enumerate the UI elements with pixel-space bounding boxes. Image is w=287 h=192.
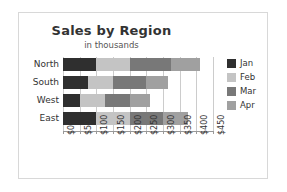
x-axis-tick-label: $50 bbox=[84, 120, 93, 135]
legend-swatch-icon bbox=[227, 73, 236, 82]
x-axis-tick-label: $0 bbox=[67, 125, 76, 135]
legend-item-mar[interactable]: Mar bbox=[227, 85, 273, 98]
legend-item-feb[interactable]: Feb bbox=[227, 71, 273, 84]
bar-segment-jan[interactable] bbox=[63, 76, 88, 89]
gridline bbox=[213, 57, 214, 131]
x-axis-tick bbox=[63, 131, 64, 134]
chart-subtitle: in thousands bbox=[19, 40, 204, 50]
x-axis-tick-label: $400 bbox=[200, 115, 209, 135]
x-axis-tick-label: $150 bbox=[117, 115, 126, 135]
legend-item-apr[interactable]: Apr bbox=[227, 99, 273, 112]
bar-segment-apr[interactable] bbox=[171, 58, 199, 71]
x-axis-tick bbox=[196, 131, 197, 134]
x-axis-tick bbox=[146, 131, 147, 134]
legend-label: Mar bbox=[240, 87, 256, 96]
x-axis-tick bbox=[163, 131, 164, 134]
bar-row[interactable]: West bbox=[63, 94, 213, 107]
x-axis-tick-label: $350 bbox=[184, 115, 193, 135]
legend-label: Jan bbox=[240, 59, 253, 68]
chart-frame: Sales by Region in thousands NorthSouthW… bbox=[18, 12, 268, 179]
category-label: East bbox=[17, 112, 59, 125]
x-axis-tick-label: $300 bbox=[167, 115, 176, 135]
x-axis-tick bbox=[80, 131, 81, 134]
x-axis-tick bbox=[130, 131, 131, 134]
chart-title: Sales by Region bbox=[19, 23, 204, 38]
bar-segment-mar[interactable] bbox=[105, 94, 130, 107]
legend-swatch-icon bbox=[227, 59, 236, 68]
bar-segment-jan[interactable] bbox=[63, 58, 96, 71]
x-axis-tick-label: $450 bbox=[217, 115, 226, 135]
category-label: West bbox=[17, 94, 59, 107]
bar-segment-feb[interactable] bbox=[96, 58, 129, 71]
bar-segment-apr[interactable] bbox=[130, 94, 150, 107]
bar-segment-feb[interactable] bbox=[80, 94, 105, 107]
legend-swatch-icon bbox=[227, 87, 236, 96]
legend-label: Feb bbox=[240, 73, 255, 82]
legend-label: Apr bbox=[240, 101, 255, 110]
category-label: North bbox=[17, 58, 59, 71]
category-label: South bbox=[17, 76, 59, 89]
x-axis-tick bbox=[96, 131, 97, 134]
x-axis-tick-label: $200 bbox=[134, 115, 143, 135]
bar-segment-mar[interactable] bbox=[130, 58, 172, 71]
chart-legend: JanFebMarApr bbox=[227, 57, 273, 113]
bar-segment-feb[interactable] bbox=[88, 76, 113, 89]
x-axis-tick bbox=[113, 131, 114, 134]
x-axis-tick-label: $250 bbox=[150, 115, 159, 135]
x-axis-tick bbox=[213, 131, 214, 134]
x-axis-tick-label: $100 bbox=[100, 115, 109, 135]
legend-item-jan[interactable]: Jan bbox=[227, 57, 273, 70]
legend-swatch-icon bbox=[227, 101, 236, 110]
bar-segment-mar[interactable] bbox=[113, 76, 146, 89]
bar-segment-apr[interactable] bbox=[146, 76, 168, 89]
bar-segment-jan[interactable] bbox=[63, 94, 80, 107]
bar-row[interactable]: North bbox=[63, 58, 213, 71]
bar-row[interactable]: South bbox=[63, 76, 213, 89]
x-axis-tick bbox=[180, 131, 181, 134]
